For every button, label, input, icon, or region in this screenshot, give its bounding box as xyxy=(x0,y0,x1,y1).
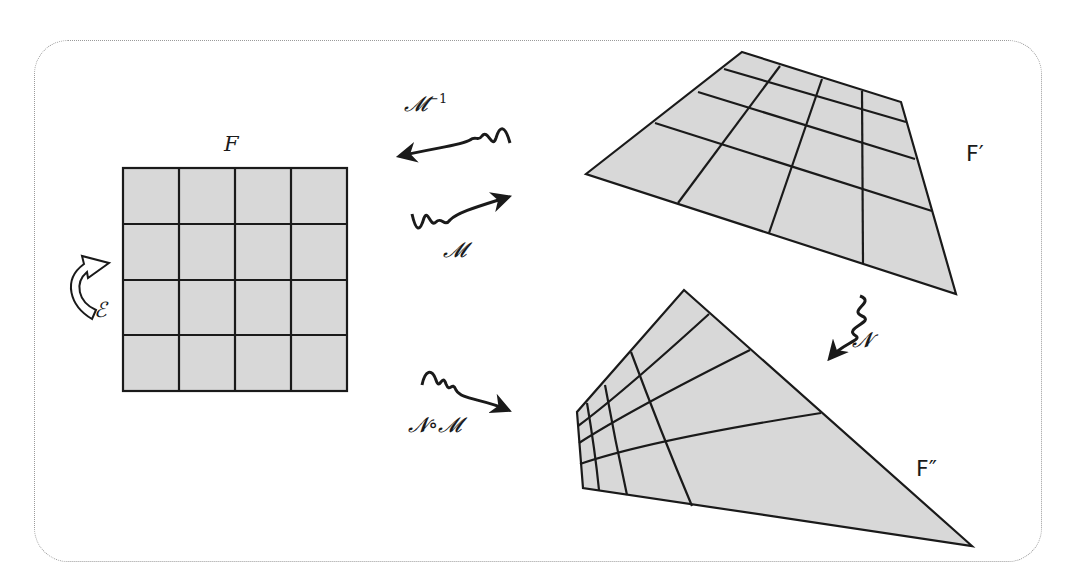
arrow-N-compose-M xyxy=(422,372,508,410)
label-E: ℰ xyxy=(94,300,107,321)
label-F-prime: F′ xyxy=(966,143,984,165)
diagram-canvas xyxy=(0,0,1072,588)
label-M: 𝓜 xyxy=(443,240,467,261)
label-F-double-prime: F″ xyxy=(916,458,937,480)
arrow-M-inverse xyxy=(400,129,510,156)
grid-F-double-prime xyxy=(577,290,972,546)
label-N: 𝓝 xyxy=(852,330,872,351)
label-N-compose-M: 𝓝∘𝓜 xyxy=(408,415,462,436)
grid-F-prime xyxy=(586,52,956,294)
label-F: F xyxy=(224,134,239,155)
arrow-M xyxy=(412,197,508,228)
grid-F xyxy=(123,168,347,391)
label-M-inverse: 𝓜−1 xyxy=(404,92,447,115)
